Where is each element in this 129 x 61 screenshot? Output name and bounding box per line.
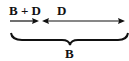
label-b-plus-d: B + D bbox=[9, 4, 41, 17]
left-segment-arrow bbox=[10, 18, 39, 24]
curly-brace bbox=[11, 33, 128, 45]
right-segment-arrow bbox=[42, 18, 125, 24]
label-b: B bbox=[65, 47, 74, 60]
label-d: D bbox=[57, 4, 66, 17]
